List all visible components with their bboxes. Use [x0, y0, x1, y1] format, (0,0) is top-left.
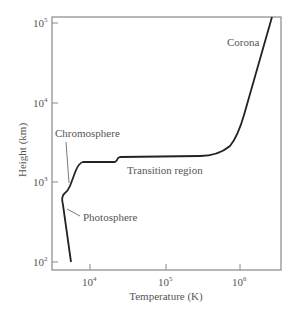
y-tick-label: 104 [33, 96, 48, 109]
plot-frame [52, 17, 281, 270]
y-tick-label: 102 [33, 255, 48, 268]
photosphere-label: Photosphere [83, 211, 138, 223]
x-tick-label: 104 [82, 275, 97, 288]
chromosphere-label: Chromosphere [55, 127, 120, 139]
y-tick-label: 103 [33, 175, 48, 188]
y-axis-label: Height (km) [16, 123, 29, 177]
y-tick-label: 105 [33, 16, 48, 29]
x-tick-label: 106 [232, 275, 247, 288]
chart: 105 104 103 102 Height (km) 104 105 106 … [0, 0, 296, 313]
corona-label: Corona [227, 36, 260, 48]
x-axis-label: Temperature (K) [129, 290, 203, 303]
chromosphere-leader [66, 142, 69, 183]
temperature-profile-curve [62, 17, 272, 262]
photosphere-leader [67, 209, 80, 216]
x-tick-label: 105 [158, 275, 173, 288]
transition-region-label: Transition region [127, 164, 203, 176]
